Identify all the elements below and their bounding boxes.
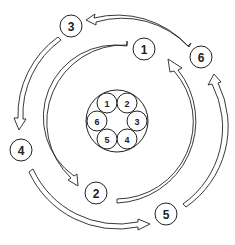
svg-text:1: 1: [141, 43, 148, 57]
hub-item-3: 3: [127, 111, 147, 131]
svg-text:6: 6: [94, 117, 99, 127]
node-2: 2: [85, 182, 107, 204]
node-1: 1: [133, 38, 155, 60]
svg-text:5: 5: [104, 135, 109, 145]
hub-item-6: 6: [87, 111, 107, 131]
svg-text:4: 4: [18, 144, 25, 158]
svg-text:2: 2: [124, 99, 129, 109]
svg-text:2: 2: [93, 187, 100, 201]
hub-item-2: 2: [117, 93, 137, 113]
node-6: 6: [190, 46, 212, 68]
svg-text:3: 3: [68, 20, 75, 34]
node-4: 4: [10, 139, 32, 161]
svg-text:1: 1: [104, 99, 109, 109]
hub-item-5: 5: [97, 129, 117, 149]
node-3: 3: [60, 15, 82, 37]
svg-text:3: 3: [134, 117, 139, 127]
hub-item-1: 1: [97, 93, 117, 113]
hub-item-4: 4: [117, 129, 137, 149]
cycle-diagram: 1 2 3 4 5 6 1 2 3: [0, 0, 235, 245]
svg-text:4: 4: [124, 135, 129, 145]
node-5: 5: [155, 203, 177, 225]
central-hub: 1 2 3 4 5 6: [86, 90, 148, 152]
svg-text:6: 6: [198, 51, 205, 65]
svg-text:5: 5: [163, 208, 170, 222]
